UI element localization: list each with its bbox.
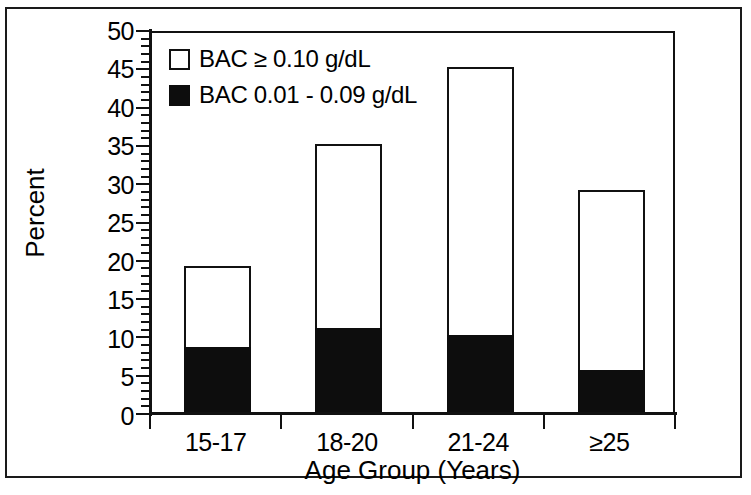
- y-tick-label-15: 15: [88, 288, 134, 313]
- y-tick-label-10: 10: [88, 327, 134, 352]
- figure-frame: 50 45 40 35 30 25 20 15 10 5 0 BAC ≥ 0.1…: [5, 7, 742, 478]
- bar-segment-bac-low-18-20[interactable]: [315, 328, 382, 412]
- x-tick-4: [674, 414, 676, 429]
- bar-segment-bac-low-21-24[interactable]: [447, 335, 514, 412]
- y-tick-major-30: [136, 183, 150, 185]
- legend-item-bac-high: BAC ≥ 0.10 g/dL: [169, 41, 459, 77]
- x-tick-label-18-20: 18-20: [281, 428, 412, 457]
- x-tick-label-15-17: 15-17: [150, 428, 281, 457]
- bar-group-15-17[interactable]: [184, 266, 251, 412]
- y-axis-title: Percent: [21, 143, 49, 283]
- y-tick-major-10: [136, 336, 150, 338]
- y-tick-label-20: 20: [88, 250, 134, 275]
- legend-label-bac-high: BAC ≥ 0.10 g/dL: [199, 46, 370, 72]
- y-tick-major-0: [136, 413, 150, 415]
- y-tick-label-0: 0: [88, 404, 134, 429]
- y-tick-label-25: 25: [88, 211, 134, 236]
- x-tick-label-21-24: 21-24: [413, 428, 544, 457]
- x-tick-0: [149, 414, 151, 429]
- x-axis-title: Age Group (Years): [150, 456, 675, 484]
- y-axis-tick-labels: 50 45 40 35 30 25 20 15 10 5 0: [79, 9, 134, 439]
- y-tick-major-40: [136, 107, 150, 109]
- y-tick-major-50: [136, 30, 150, 32]
- y-tick-label-30: 30: [88, 173, 134, 198]
- bar-group-≥25[interactable]: [578, 190, 645, 412]
- bar-segment-bac-low-≥25[interactable]: [578, 370, 645, 412]
- y-tick-major-5: [136, 375, 150, 377]
- bar-segment-bac-low-15-17[interactable]: [184, 347, 251, 412]
- y-tick-major-35: [136, 145, 150, 147]
- y-tick-label-40: 40: [88, 96, 134, 121]
- y-tick-major-25: [136, 222, 150, 224]
- chart-legend: BAC ≥ 0.10 g/dL BAC 0.01 - 0.09 g/dL: [169, 41, 459, 113]
- y-tick-major-15: [136, 298, 150, 300]
- x-tick-label-≥25: ≥25: [544, 428, 675, 457]
- legend-item-bac-low: BAC 0.01 - 0.09 g/dL: [169, 77, 459, 113]
- y-tick-label-5: 5: [88, 365, 134, 390]
- bar-group-21-24[interactable]: [447, 67, 514, 412]
- y-tick-label-45: 45: [88, 57, 134, 82]
- plot-area: BAC ≥ 0.10 g/dL BAC 0.01 - 0.09 g/dL: [150, 31, 675, 414]
- x-tick-2: [412, 414, 414, 429]
- legend-label-bac-low: BAC 0.01 - 0.09 g/dL: [199, 82, 417, 108]
- x-tick-3: [543, 414, 545, 429]
- bar-group-18-20[interactable]: [315, 144, 382, 412]
- x-tick-1: [280, 414, 282, 429]
- y-tick-major-45: [136, 68, 150, 70]
- y-tick-label-50: 50: [88, 19, 134, 44]
- legend-swatch-filled-icon: [169, 85, 190, 106]
- legend-swatch-hollow-icon: [169, 49, 190, 70]
- y-tick-major-20: [136, 260, 150, 262]
- y-tick-label-35: 35: [88, 134, 134, 159]
